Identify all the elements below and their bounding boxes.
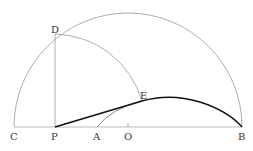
geometry-diagram: C P A O B D E — [0, 0, 253, 151]
segment-pe — [55, 101, 142, 127]
label-p: P — [51, 131, 58, 142]
label-a: A — [92, 131, 101, 142]
label-e: E — [140, 90, 147, 101]
label-c: C — [10, 131, 18, 142]
label-d: D — [51, 24, 59, 35]
label-o: O — [124, 131, 132, 142]
curve-ae — [97, 101, 142, 127]
curve-eb — [142, 97, 242, 127]
large-semicircle — [14, 13, 242, 127]
label-b: B — [238, 131, 245, 142]
arc-de — [55, 34, 142, 101]
